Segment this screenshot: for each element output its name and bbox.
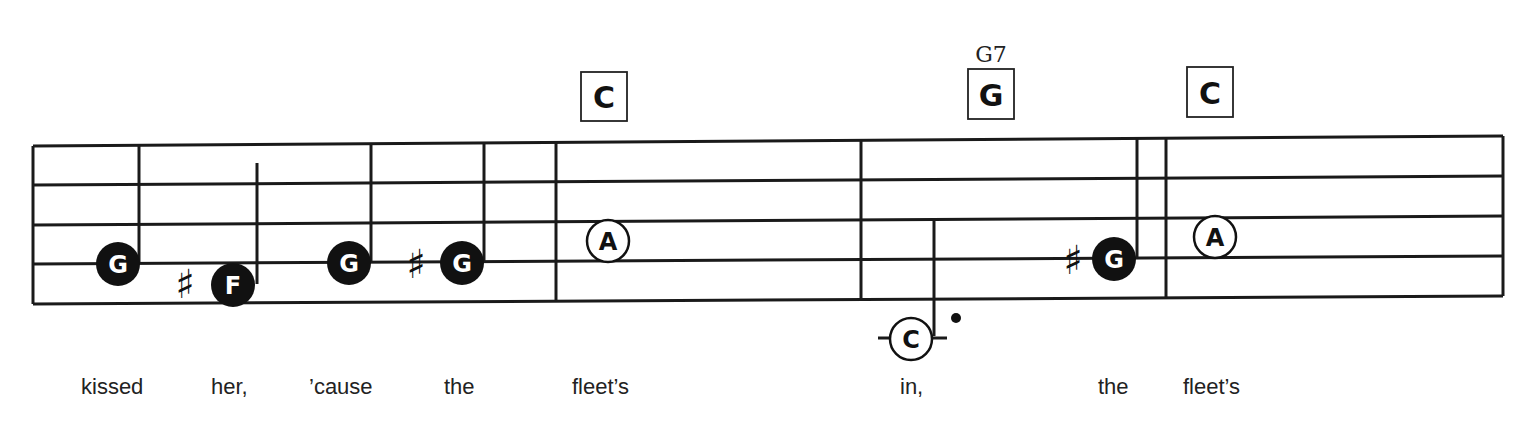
svg-text:C: C — [902, 326, 920, 354]
svg-text:A: A — [1206, 224, 1225, 252]
svg-text:C: C — [593, 80, 615, 115]
lyric-word: kissed — [81, 374, 143, 400]
note-a-1: A — [587, 220, 629, 262]
sharp-icon: ♯ — [406, 241, 425, 287]
lyric-word: the — [444, 374, 475, 400]
svg-text:G: G — [1104, 246, 1124, 274]
chord-symbol-g: G7 G — [968, 42, 1014, 119]
note-g-2: G — [327, 144, 371, 285]
svg-text:G: G — [979, 78, 1004, 113]
note-g-sharp-2: ♯ G — [1063, 139, 1137, 283]
svg-text:G: G — [339, 250, 359, 278]
lyric-word: fleet’s — [572, 374, 629, 400]
svg-text:G: G — [452, 250, 472, 278]
note-g-1: G — [96, 146, 140, 286]
svg-text:F: F — [225, 272, 241, 300]
sharp-icon: ♯ — [1063, 237, 1082, 283]
note-g-sharp-1: ♯ G — [406, 143, 484, 287]
lyric-word: her, — [211, 374, 248, 400]
svg-text:G7: G7 — [975, 42, 1007, 67]
music-staff: C G7 G C G ♯ F G ♯ G A — [0, 0, 1539, 429]
sharp-icon: ♯ — [175, 261, 194, 307]
dot-icon — [951, 313, 961, 323]
chord-symbol-c-1: C — [581, 72, 627, 121]
lyric-word: ’cause — [309, 374, 373, 400]
lyric-word: fleet’s — [1183, 374, 1240, 400]
svg-text:A: A — [599, 228, 618, 256]
lyric-word: the — [1098, 374, 1129, 400]
note-a-2: A — [1194, 216, 1236, 258]
svg-text:G: G — [108, 251, 128, 279]
svg-text:C: C — [1199, 76, 1221, 111]
note-c-dotted: C — [878, 219, 961, 360]
chord-symbol-c-2: C — [1187, 67, 1233, 117]
lyric-word: in, — [900, 374, 923, 400]
